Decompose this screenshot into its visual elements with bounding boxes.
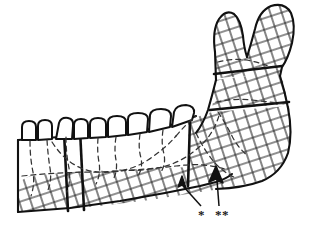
- dashed-alveolar-boundary: [52, 136, 176, 172]
- tooth-5: [90, 118, 106, 138]
- label-double-asterisk: **: [215, 208, 229, 221]
- tooth-6: [108, 116, 126, 137]
- mandible-diagram: [0, 0, 311, 236]
- tooth-8: [149, 109, 171, 132]
- tooth-3-sectioned: [56, 118, 73, 139]
- tooth-2: [38, 120, 52, 140]
- tooth-1: [22, 121, 36, 140]
- figure-container: * **: [0, 0, 311, 236]
- tooth-4: [74, 119, 88, 139]
- label-single-asterisk: *: [198, 208, 205, 221]
- teeth-arch: [22, 105, 194, 140]
- root-outline-7: [161, 130, 165, 172]
- tooth-7: [128, 113, 148, 135]
